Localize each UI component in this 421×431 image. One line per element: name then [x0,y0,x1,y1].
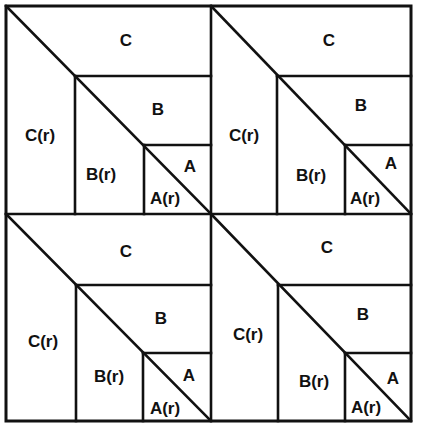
label-b: B [357,305,369,324]
label-a: A [184,157,196,176]
label-b: B [155,309,167,328]
diagonal [6,214,211,421]
tile-bottom-left: C C(r) B B(r) A A(r) [6,214,211,421]
label-c-r: C(r) [233,325,263,344]
label-b-r: B(r) [86,165,116,184]
label-a: A [183,366,195,385]
label-a-r: A(r) [350,189,380,208]
tile-bottom-right: C C(r) B B(r) A A(r) [211,214,411,421]
label-c: C [321,238,333,257]
tiling-diagram: C C(r) B B(r) A A(r) C C(r) B B(r) A A(r… [0,0,421,431]
label-c: C [120,31,132,50]
label-c-r: C(r) [25,126,55,145]
label-c-r: C(r) [28,332,58,351]
label-c: C [120,242,132,261]
label-a-r: A(r) [150,399,180,418]
label-a: A [387,369,399,388]
label-a: A [385,154,397,173]
tile-top-left: C C(r) B B(r) A A(r) [6,6,211,214]
label-b-r: B(r) [299,372,329,391]
label-c-r: C(r) [229,126,259,145]
label-c: C [323,31,335,50]
label-b-r: B(r) [94,367,124,386]
label-a-r: A(r) [150,189,180,208]
label-b-r: B(r) [296,166,326,185]
tile-top-right: C C(r) B B(r) A A(r) [211,6,411,214]
label-b: B [355,96,367,115]
label-b: B [152,100,164,119]
label-a-r: A(r) [351,398,381,417]
